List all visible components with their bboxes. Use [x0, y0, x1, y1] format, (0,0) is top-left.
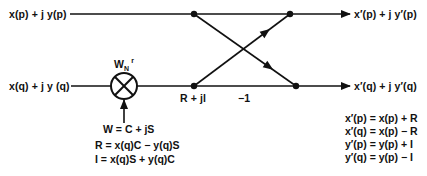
- node-bottom-left: [191, 83, 197, 89]
- multiplier-icon: [111, 73, 137, 99]
- twiddle-subscript: N: [124, 65, 129, 72]
- output-bottom-label: x′(q) + j y′(q): [354, 80, 417, 92]
- twiddle-base: W: [114, 58, 124, 70]
- output-equation-yp: y′(p) = y(p) + I: [345, 138, 413, 151]
- node-top-right: [287, 11, 293, 17]
- product-label: R + jl: [180, 92, 206, 104]
- output-equation-yq: y′(q) = y(p) − I: [345, 151, 413, 164]
- product-equation-imag: I = x(q)S + y(q)C: [95, 153, 175, 166]
- arrow-down-icon: [263, 61, 276, 73]
- input-bottom-label: x(q) + j y (q): [9, 80, 70, 92]
- branch-gain-label: −1: [238, 92, 250, 104]
- input-top-label: x(p) + j y(p): [9, 8, 67, 20]
- twiddle-superscript: r: [131, 57, 134, 64]
- node-top-left: [191, 11, 197, 17]
- output-top-label: x′(p) + j y′(p): [354, 8, 417, 20]
- twiddle-factor-label: WNr: [114, 58, 134, 72]
- twiddle-definition: W = C + jS: [103, 123, 154, 136]
- product-equation-real: R = x(q)C − y(q)S: [95, 139, 180, 152]
- node-bottom-right: [293, 83, 299, 89]
- output-equation-xp: x′(p) = x(p) + R: [345, 112, 418, 125]
- output-equation-xq: x′(q) = x(p) − R: [345, 125, 418, 138]
